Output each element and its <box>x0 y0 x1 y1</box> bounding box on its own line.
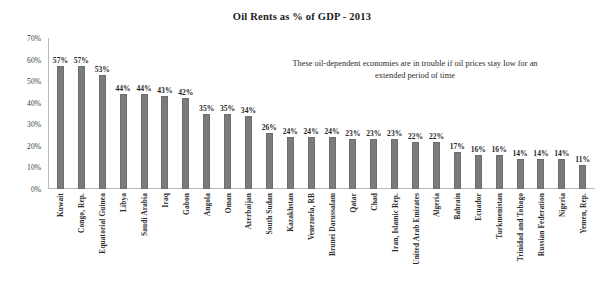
bar[interactable] <box>391 139 398 189</box>
bar[interactable] <box>57 66 64 189</box>
x-axis-tick-label: Congo, Rep. <box>77 193 86 233</box>
bar[interactable] <box>120 94 127 189</box>
bar-value-label: 44% <box>116 84 131 93</box>
bar[interactable] <box>78 66 85 189</box>
x-axis-category: Trinidad and Tobago <box>510 191 531 301</box>
bar-slot[interactable]: 23% <box>384 38 405 189</box>
x-axis-tick-label: Angola <box>202 193 211 216</box>
bar-slot[interactable]: 57% <box>50 38 71 189</box>
x-axis-tick-label: Ecuador <box>474 193 483 221</box>
bar-slot[interactable]: 34% <box>238 38 259 189</box>
bar-slot[interactable]: 44% <box>113 38 134 189</box>
x-axis-tick-label: Saudi Arabia <box>140 193 149 236</box>
bar-slot[interactable]: 22% <box>426 38 447 189</box>
bar[interactable] <box>433 142 440 189</box>
bar[interactable] <box>579 165 586 189</box>
y-axis-tick-label: 40% <box>1 98 41 107</box>
bar-slot[interactable]: 14% <box>530 38 551 189</box>
bar[interactable] <box>454 152 461 189</box>
bar-slot[interactable]: 23% <box>363 38 384 189</box>
bar[interactable] <box>308 137 315 189</box>
bar-value-label: 14% <box>554 149 569 158</box>
bar-slot[interactable]: 22% <box>405 38 426 189</box>
bar[interactable] <box>475 155 482 190</box>
bar-slot[interactable]: 26% <box>259 38 280 189</box>
bar-value-label: 16% <box>492 145 507 154</box>
bar-slot[interactable]: 53% <box>92 38 113 189</box>
bar-slot[interactable]: 24% <box>280 38 301 189</box>
bar-value-label: 17% <box>450 142 465 151</box>
x-axis-tick-label: Qatar <box>348 193 357 212</box>
bar-value-label: 57% <box>53 56 68 65</box>
bar-slot[interactable]: 11% <box>572 38 593 189</box>
bar-value-label: 43% <box>157 86 172 95</box>
bar-value-label: 34% <box>241 106 256 115</box>
x-axis-category: Qatar <box>342 191 363 301</box>
x-axis-category: Kuwait <box>50 191 71 301</box>
x-axis-category: Russian Federation <box>530 191 551 301</box>
x-axis-category: Turkmenistan <box>489 191 510 301</box>
bar-slot[interactable]: 35% <box>196 38 217 189</box>
bar[interactable] <box>99 75 106 189</box>
bar-slot[interactable]: 43% <box>154 38 175 189</box>
bar[interactable] <box>203 114 210 190</box>
bar-slot[interactable]: 14% <box>551 38 572 189</box>
bar-slot[interactable]: 42% <box>175 38 196 189</box>
bar[interactable] <box>287 137 294 189</box>
bar-value-label: 24% <box>324 127 339 136</box>
bar-value-label: 26% <box>262 123 277 132</box>
x-axis-category: Libya <box>113 191 134 301</box>
x-axis-tick-label: Trinidad and Tobago <box>516 193 525 261</box>
bar-slot[interactable]: 44% <box>134 38 155 189</box>
bar-value-label: 14% <box>512 149 527 158</box>
y-axis-tick-label: 70% <box>1 34 41 43</box>
bar-slot[interactable]: 17% <box>447 38 468 189</box>
bar[interactable] <box>141 94 148 189</box>
bar[interactable] <box>496 155 503 190</box>
x-axis-tick-label: Russian Federation <box>536 193 545 256</box>
bar[interactable] <box>329 137 336 189</box>
y-axis-tick-label: 60% <box>1 55 41 64</box>
bar-value-label: 14% <box>533 149 548 158</box>
x-axis-tick-label: United Arab Emirates <box>411 193 420 265</box>
bar[interactable] <box>537 159 544 189</box>
bar-value-label: 53% <box>95 65 110 74</box>
bar-slot[interactable]: 24% <box>301 38 322 189</box>
bar-slot[interactable]: 23% <box>342 38 363 189</box>
bar[interactable] <box>558 159 565 189</box>
bar-value-label: 24% <box>304 127 319 136</box>
bar[interactable] <box>349 139 356 189</box>
bar-slot[interactable]: 14% <box>510 38 531 189</box>
y-axis: 70%60%50%40%30%20%10%0% <box>0 30 46 197</box>
x-axis-tick-label: Gabon <box>181 193 190 215</box>
bar-value-label: 23% <box>345 129 360 138</box>
bar-value-label: 35% <box>199 104 214 113</box>
bar[interactable] <box>266 133 273 189</box>
x-axis-tick-label: Equatorial Guinea <box>98 193 107 254</box>
bar-slot[interactable]: 16% <box>489 38 510 189</box>
bar-value-label: 44% <box>136 84 151 93</box>
bar[interactable] <box>370 139 377 189</box>
x-axis-category: Algeria <box>426 191 447 301</box>
x-axis-category: Azerbaijan <box>238 191 259 301</box>
bar[interactable] <box>412 142 419 189</box>
x-axis-category: Iraq <box>154 191 175 301</box>
x-axis-category: Oman <box>217 191 238 301</box>
bar-slot[interactable]: 35% <box>217 38 238 189</box>
bar[interactable] <box>182 98 189 189</box>
x-axis-tick-label: Iran, Islamic Rep. <box>390 193 399 252</box>
y-axis-tick-label: 30% <box>1 120 41 129</box>
bar-value-label: 57% <box>74 56 89 65</box>
bar[interactable] <box>245 116 252 189</box>
bar[interactable] <box>517 159 524 189</box>
x-axis-tick-label: Kuwait <box>56 193 65 217</box>
x-axis-tick-label: Libya <box>119 193 128 212</box>
bar[interactable] <box>224 114 231 190</box>
bar-slot[interactable]: 57% <box>71 38 92 189</box>
bar[interactable] <box>161 96 168 189</box>
x-axis-tick-label: Algeria <box>432 193 441 217</box>
bar-slot[interactable]: 16% <box>468 38 489 189</box>
x-axis-category: Kazakhstan <box>280 191 301 301</box>
bar-slot[interactable]: 24% <box>322 38 343 189</box>
x-axis-tick-label: Iraq <box>160 193 169 207</box>
